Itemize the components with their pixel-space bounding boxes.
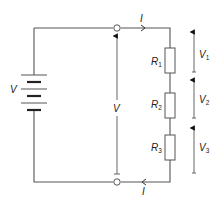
voltage-arrow-v1 — [192, 32, 196, 72]
current-label-bottom: I — [142, 186, 145, 197]
current-label-top: I — [140, 13, 143, 24]
resistor-r3-label: R3 — [151, 142, 162, 154]
resistor-r3-icon — [165, 135, 175, 160]
resistor-r2-icon — [165, 93, 175, 118]
source-voltage-label: V — [10, 84, 18, 95]
battery-icon — [21, 75, 47, 110]
circuit-wires — [34, 28, 170, 182]
resistor-r1-icon — [165, 48, 175, 73]
voltage-v3-label: V3 — [199, 142, 210, 154]
terminal-bottom-icon — [114, 179, 120, 185]
terminal-top-icon — [114, 25, 120, 31]
resistor-r1-label: R1 — [151, 56, 162, 68]
voltage-v2-label: V2 — [199, 94, 210, 106]
terminal-voltage-label: V — [113, 103, 121, 114]
voltage-v1-label: V1 — [199, 49, 210, 61]
series-circuit-diagram: V V I I R1 R2 R3 V1 V2 V3 — [0, 0, 216, 207]
voltage-arrow-v2 — [192, 80, 196, 118]
voltage-arrow-v3 — [192, 128, 196, 173]
resistor-r2-label: R2 — [151, 99, 162, 111]
